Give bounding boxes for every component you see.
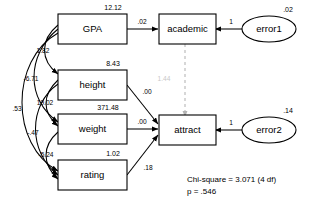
node-gpa-label: GPA <box>83 23 103 34</box>
node-gpa[interactable]: GPA 12.12 <box>58 4 127 44</box>
node-academic-label: academic <box>167 23 208 34</box>
node-weight[interactable]: weight 371.48 <box>58 104 127 144</box>
coefficient-label-academic-attract: 1.44 <box>158 75 171 82</box>
covariance-label-gpa-rating: .53 <box>12 105 21 112</box>
node-rating[interactable]: rating 1.02 <box>58 150 127 190</box>
node-error2-label: error2 <box>256 124 281 135</box>
variance-label-error1: .02 <box>283 6 293 13</box>
regression-paths <box>127 29 242 175</box>
node-weight-label: weight <box>78 123 107 134</box>
covariance-label-gpa-height: 1.82 <box>37 47 50 54</box>
node-error1-label: error1 <box>256 23 281 34</box>
coefficient-label-height-attract: .00 <box>142 88 151 95</box>
node-attract-label: attract <box>174 124 201 135</box>
node-height[interactable]: height 8.43 <box>58 60 127 100</box>
fit-p-value-text: p = .546 <box>187 187 217 196</box>
variance-label-gpa: 12.12 <box>104 4 122 11</box>
variance-label-rating: 1.02 <box>106 150 120 157</box>
fit-chi-square-text: Chi-square = 3.071 (4 df) <box>187 175 276 184</box>
node-attract[interactable]: attract <box>159 115 216 145</box>
node-height-label: height <box>80 79 106 90</box>
variance-label-weight: 371.48 <box>97 104 119 111</box>
coefficient-label-rating-attract: .18 <box>143 164 152 171</box>
diagram-svg: 1.82 -6.71 19.02 .53 -.47 -5.24 .02 .00 … <box>0 0 312 210</box>
node-academic[interactable]: academic <box>159 14 216 44</box>
variance-label-height: 8.43 <box>106 60 120 67</box>
coefficient-label-gpa-academic: .02 <box>137 18 146 25</box>
loading-label-error2: 1 <box>229 119 233 126</box>
coefficient-label-weight-attract: .00 <box>137 118 146 125</box>
covariance-label-height-weight: 19.02 <box>37 99 54 106</box>
covariance-label-height-rating: -.47 <box>27 129 39 136</box>
node-rating-label: rating <box>81 169 105 180</box>
node-error2[interactable]: error2 .14 <box>242 107 296 143</box>
variance-label-error2: .14 <box>283 107 293 114</box>
loading-label-error1: 1 <box>229 18 233 25</box>
node-error1[interactable]: error1 .02 <box>242 6 296 42</box>
path-diagram-canvas: 1.82 -6.71 19.02 .53 -.47 -5.24 .02 .00 … <box>0 0 312 210</box>
covariance-label-weight-rating: -5.24 <box>38 151 53 158</box>
covariance-label-gpa-weight: -6.71 <box>23 75 38 82</box>
